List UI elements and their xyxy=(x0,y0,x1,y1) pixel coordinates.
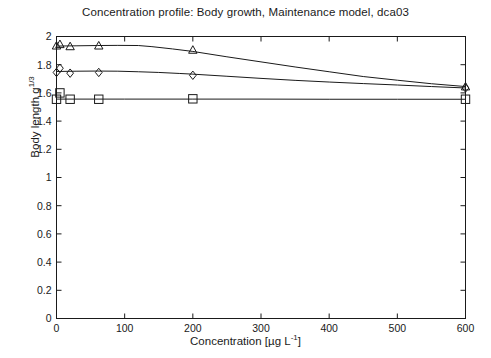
curve-triangle-series xyxy=(57,45,466,86)
svg-text:1.2: 1.2 xyxy=(37,143,52,155)
svg-text:2: 2 xyxy=(46,30,52,42)
svg-text:300: 300 xyxy=(252,322,270,334)
marker-diamond xyxy=(67,69,74,77)
svg-text:100: 100 xyxy=(116,322,134,334)
svg-text:0: 0 xyxy=(54,322,60,334)
figure-canvas: Concentration profile: Body growth, Main… xyxy=(0,0,491,358)
series-curves xyxy=(57,45,466,99)
markers-triangle-series xyxy=(52,40,469,90)
markers-square-series xyxy=(52,89,469,104)
svg-text:500: 500 xyxy=(389,322,407,334)
svg-text:1.4: 1.4 xyxy=(37,115,52,127)
curve-diamond-series xyxy=(57,71,466,88)
svg-text:200: 200 xyxy=(184,322,202,334)
svg-text:400: 400 xyxy=(320,322,338,334)
svg-text:1: 1 xyxy=(46,171,52,183)
plot-area: 0100200300400500600 00.20.40.60.811.21.4… xyxy=(0,0,491,358)
x-axis-ticks: 0100200300400500600 xyxy=(54,37,475,334)
svg-text:1.6: 1.6 xyxy=(37,87,52,99)
svg-text:0.6: 0.6 xyxy=(37,228,52,240)
svg-text:0.2: 0.2 xyxy=(37,284,52,296)
svg-text:1.8: 1.8 xyxy=(37,59,52,71)
svg-text:600: 600 xyxy=(457,322,475,334)
marker-diamond xyxy=(189,71,196,79)
marker-diamond xyxy=(95,68,102,76)
svg-text:0: 0 xyxy=(46,312,52,324)
svg-text:0.8: 0.8 xyxy=(37,200,52,212)
series-markers xyxy=(52,40,469,103)
svg-text:0.4: 0.4 xyxy=(37,256,52,268)
